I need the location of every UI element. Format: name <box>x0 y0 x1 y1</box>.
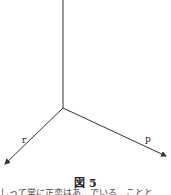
r-axis-label: r <box>22 136 26 145</box>
p-axis-label: p <box>145 135 151 144</box>
axes-diagram <box>0 0 171 195</box>
body-text-cropped: しって常に正恋はあ…でいる…ことと <box>0 189 153 195</box>
p-axis <box>63 108 166 156</box>
r-axis <box>5 108 63 164</box>
